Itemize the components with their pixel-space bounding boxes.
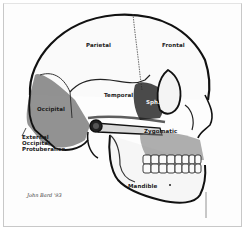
label-parietal: Parietal: [86, 42, 111, 48]
mastoid: [88, 132, 98, 158]
mental-foramen: [169, 184, 171, 186]
label-zygomatic: Zygomatic: [144, 128, 177, 134]
nasal-outline: [198, 95, 212, 138]
skull-illustration: [0, 0, 248, 237]
label-sphenoid: Sph.: [146, 99, 160, 105]
teeth: [143, 155, 201, 173]
label-occipital: Occipital: [37, 106, 65, 112]
label-temporal: Temporal: [104, 92, 133, 98]
label-mandible: Mandible: [128, 183, 157, 189]
label-frontal: Frontal: [162, 42, 185, 48]
label-protuberance: Protuberance: [22, 146, 65, 152]
artist-signature: John Bard '93: [27, 192, 62, 198]
